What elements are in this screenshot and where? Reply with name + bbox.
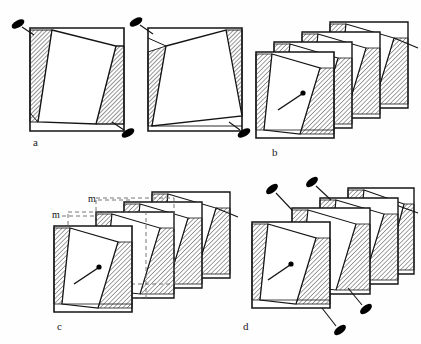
needle-hub <box>96 264 101 269</box>
plate-b1 <box>256 52 334 138</box>
figure-root: a <box>0 0 421 344</box>
panel-label-a: a <box>33 136 38 148</box>
technical-diagram: a <box>0 0 421 344</box>
plate-a1 <box>30 28 124 131</box>
dimension-label-m-1: m <box>52 209 60 220</box>
dimension-label-m-2: m <box>88 193 96 204</box>
panel-label-b: b <box>272 146 278 158</box>
needle-hub <box>288 261 293 266</box>
plate-a2 <box>148 28 242 131</box>
panel-label-c: c <box>57 320 62 332</box>
needle-hub <box>300 90 305 95</box>
plate-d1 <box>252 222 330 308</box>
plate-c1 <box>54 226 132 312</box>
panel-label-d: d <box>243 320 249 332</box>
